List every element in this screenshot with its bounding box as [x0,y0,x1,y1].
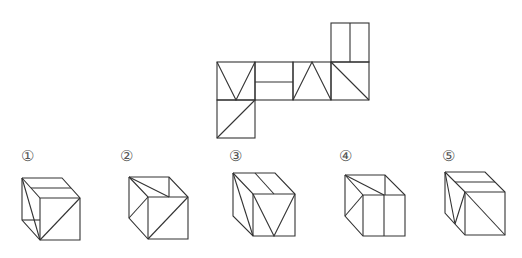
option-5-label: ⑤ [442,149,455,164]
net-face-top [331,23,369,62]
option-1-label: ① [21,149,34,164]
option-4-label: ④ [339,149,352,164]
cube-net-puzzle: ① ② ③ ④ ⑤ [0,0,522,258]
option-3-cube[interactable] [233,173,295,236]
net-face-inverted-v [293,62,331,100]
net-face-diagonal [331,62,369,100]
option-1-cube[interactable] [22,178,80,240]
option-2-label: ② [120,149,133,164]
cube-net [217,23,369,138]
option-3-label: ③ [229,149,242,164]
net-face-bottom [217,100,255,138]
option-5-cube[interactable] [445,172,505,235]
option-4-cube[interactable] [345,175,405,236]
net-face-v-shape [217,62,255,100]
puzzle-drawing [0,0,522,258]
net-face-horizontal-line [255,62,293,100]
option-2-cube[interactable] [129,177,188,239]
